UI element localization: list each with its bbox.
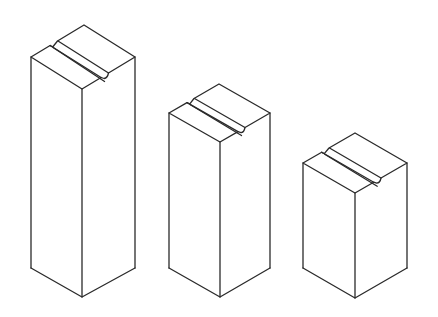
short-block (303, 133, 407, 298)
groove-edge-far (58, 41, 109, 73)
medium-block (169, 84, 270, 297)
grooved-blocks-figure (0, 0, 438, 317)
tall-block (31, 25, 135, 297)
blocks-drawing (0, 0, 438, 317)
